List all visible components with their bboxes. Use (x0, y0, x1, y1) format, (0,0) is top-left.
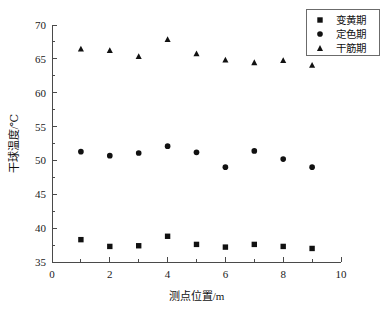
legend-label: 变黄期 (336, 14, 366, 26)
x-tick-label: 6 (223, 268, 229, 280)
data-point (165, 36, 171, 42)
data-point (165, 143, 171, 149)
y-tick-label: 60 (35, 87, 47, 99)
series-2-points (78, 143, 315, 170)
data-point (251, 148, 257, 154)
data-point (194, 242, 199, 247)
data-point (280, 156, 286, 162)
chart-legend: 变黄期定色期干筋期 (306, 9, 379, 55)
series-1-points (78, 234, 315, 252)
data-point (251, 59, 257, 65)
data-point (223, 244, 228, 249)
data-point (194, 149, 200, 155)
legend-marker-circle (317, 31, 323, 37)
data-point (136, 150, 142, 156)
data-point (165, 234, 170, 239)
data-point (193, 51, 199, 57)
data-point (280, 57, 286, 63)
data-point (78, 149, 84, 155)
x-tick-label: 10 (336, 268, 348, 280)
x-tick-label: 2 (107, 268, 113, 280)
data-point (281, 244, 286, 249)
legend-marker-square (317, 17, 322, 22)
chart-page: 35404550556065700246810 变黄期定色期干筋期 测点位置/m… (0, 0, 383, 312)
data-point (107, 153, 113, 159)
x-tick-label: 4 (165, 268, 171, 280)
data-point (309, 164, 315, 170)
x-tick-label: 0 (49, 268, 55, 280)
y-tick-label: 45 (35, 188, 47, 200)
y-tick-label: 65 (35, 53, 47, 65)
data-point (78, 46, 84, 52)
y-tick-label: 35 (35, 256, 47, 268)
series-3-points (78, 36, 315, 68)
y-axis-title: 干球温度/℃ (7, 114, 20, 173)
data-point (223, 164, 229, 170)
data-point (107, 244, 112, 249)
legend-label: 干筋期 (336, 42, 366, 54)
y-tick-label: 55 (35, 121, 47, 133)
data-point (136, 243, 141, 248)
data-point (222, 57, 228, 63)
y-tick-label: 50 (35, 154, 47, 166)
y-tick-label: 40 (35, 222, 47, 234)
x-tick-label: 8 (280, 268, 286, 280)
scatter-chart: 35404550556065700246810 变黄期定色期干筋期 测点位置/m… (0, 0, 383, 312)
legend-label: 定色期 (336, 28, 366, 40)
chart-axes (52, 25, 341, 262)
data-point (309, 62, 315, 68)
data-point (252, 242, 257, 247)
chart-axis-titles: 测点位置/m干球温度/℃ (7, 114, 225, 302)
y-tick-label: 70 (35, 19, 47, 31)
data-point (136, 53, 142, 59)
x-axis-title: 测点位置/m (169, 289, 225, 302)
data-point (309, 246, 314, 251)
data-point (78, 237, 83, 242)
data-point (107, 47, 113, 53)
chart-data-points (78, 36, 315, 251)
